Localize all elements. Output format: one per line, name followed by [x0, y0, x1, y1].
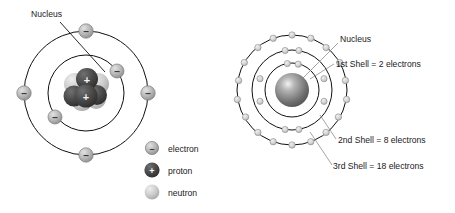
legend-label-proton: proton	[168, 166, 193, 176]
svg-text:+: +	[149, 166, 154, 176]
nucleus-label: Nucleus	[340, 34, 371, 44]
proton-plus-sign: +	[83, 91, 89, 103]
electron-icon: –	[79, 24, 93, 38]
electron-dot	[289, 142, 295, 148]
left-atom-panel: + + – – – –	[0, 0, 228, 213]
svg-text:–: –	[145, 88, 151, 99]
electron-icon: –	[141, 86, 155, 100]
electron-dot	[335, 114, 341, 120]
electron-icon: –	[17, 86, 31, 100]
electron-icon: –	[145, 141, 158, 154]
electron-dot	[282, 47, 288, 53]
electron-dot	[270, 35, 276, 41]
electron-dot	[323, 129, 329, 135]
right-atom-svg: Nucleus 1st Shell = 2 electrons 2nd Shel…	[228, 0, 455, 213]
electron-dot	[242, 114, 248, 120]
electron-dot	[295, 61, 301, 67]
legend-item-neutron: neutron	[145, 185, 198, 200]
legend-item-electron: – electron	[145, 141, 198, 154]
nucleus-cluster: + +	[64, 68, 110, 111]
nucleus-leader-line	[300, 43, 338, 81]
svg-text:–: –	[149, 144, 154, 154]
electron-dot	[284, 61, 290, 67]
electron-dot	[257, 76, 263, 82]
svg-text:–: –	[83, 150, 89, 161]
electron-dot	[235, 77, 241, 83]
proton-plus-sign: +	[84, 74, 90, 86]
svg-text:–: –	[21, 88, 27, 99]
svg-text:–: –	[114, 66, 120, 77]
electron-icon: –	[48, 110, 62, 124]
legend-item-proton: + proton	[144, 162, 192, 177]
electron-dot	[323, 44, 329, 50]
electron-dot	[343, 96, 349, 102]
shell-1-label: 1st Shell = 2 electrons	[336, 59, 421, 69]
electron-icon: –	[110, 64, 124, 78]
electron-icon: –	[79, 148, 93, 162]
electron-dot	[296, 47, 302, 53]
nucleus-label: Nucleus	[31, 9, 62, 19]
svg-text:–: –	[52, 112, 58, 123]
electron-dot	[241, 59, 247, 65]
electron-dot	[255, 44, 261, 50]
electron-dot	[270, 139, 276, 145]
electron-dot	[257, 98, 263, 104]
electron-dot	[308, 35, 314, 41]
shell-2-label: 2nd Shell = 8 electrons	[338, 135, 426, 145]
electron-dot	[321, 98, 327, 104]
electron-dot	[255, 129, 261, 135]
shell-3-label: 3rd Shell = 18 electrons	[333, 161, 424, 171]
nucleus-sphere	[275, 73, 309, 107]
proton-icon: +	[144, 162, 159, 177]
svg-text:–: –	[83, 26, 89, 37]
electron-dot	[289, 32, 295, 38]
legend-label-neutron: neutron	[168, 188, 197, 198]
electron-dot	[234, 96, 240, 102]
electron-dot	[296, 126, 302, 132]
legend: – electron + proton neutron	[144, 141, 198, 199]
right-atom-panel: Nucleus 1st Shell = 2 electrons 2nd Shel…	[228, 0, 455, 213]
electron-dot	[282, 126, 288, 132]
legend-label-electron: electron	[168, 144, 199, 154]
electron-dot	[308, 139, 314, 145]
electron-dot	[342, 77, 348, 83]
shell-1-electrons	[284, 61, 301, 68]
atomic-structure-figure: + + – – – –	[0, 0, 455, 213]
left-atom-svg: + + – – – –	[0, 0, 228, 213]
electron-dot	[321, 76, 327, 82]
neutron-icon	[145, 185, 160, 200]
